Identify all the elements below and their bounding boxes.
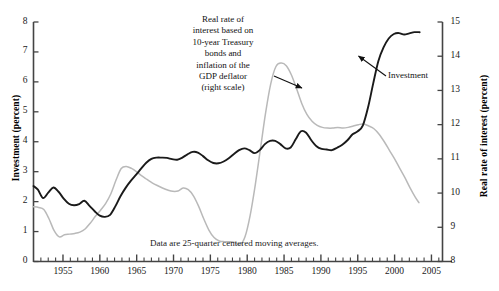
callout-line: GDP deflator bbox=[172, 71, 274, 82]
callout-line: bonds and bbox=[172, 48, 274, 59]
interest-callout-text: Real rate ofinterest based on10-year Tre… bbox=[172, 14, 274, 94]
right-tick-label: 14 bbox=[451, 50, 469, 60]
right-tick-label: 8 bbox=[451, 255, 469, 265]
right-axis-title: Real rate of interest (percent) bbox=[479, 70, 489, 202]
x-tick-label: 1990 bbox=[304, 266, 338, 276]
x-tick-label: 1955 bbox=[46, 266, 80, 276]
right-tick-label: 11 bbox=[451, 152, 469, 162]
callout-line: interest based on bbox=[172, 25, 274, 36]
x-tick-label: 2000 bbox=[378, 266, 412, 276]
left-tick-label: 7 bbox=[12, 45, 28, 55]
right-tick-label: 15 bbox=[451, 16, 469, 26]
interest-callout-arrow bbox=[274, 76, 302, 88]
x-tick-label: 2005 bbox=[414, 266, 448, 276]
investment-vs-real-interest-chart: Investment (percent) Real rate of intere… bbox=[0, 0, 499, 291]
left-tick-label: 4 bbox=[12, 135, 28, 145]
left-tick-label: 5 bbox=[12, 105, 28, 115]
left-tick-label: 6 bbox=[12, 75, 28, 85]
investment-callout-text: Investment bbox=[388, 70, 428, 80]
right-tick-label: 12 bbox=[451, 118, 469, 128]
left-tick-label: 0 bbox=[12, 255, 28, 265]
right-tick-label: 10 bbox=[451, 187, 469, 197]
x-tick-label: 1970 bbox=[157, 266, 191, 276]
callout-line: 10-year Treasury bbox=[172, 37, 274, 48]
right-tick-label: 13 bbox=[451, 84, 469, 94]
callout-line: Investment bbox=[388, 70, 428, 80]
x-tick-label: 1985 bbox=[267, 266, 301, 276]
callout-line: Real rate of bbox=[172, 14, 274, 25]
x-tick-label: 1965 bbox=[120, 266, 154, 276]
right-tick-label: 9 bbox=[451, 221, 469, 231]
footnote-text: Data are 25-quarter centered moving aver… bbox=[150, 238, 318, 248]
investment-callout-arrow bbox=[359, 56, 387, 76]
callout-line: (right scale) bbox=[172, 82, 274, 93]
callout-line: inflation of the bbox=[172, 60, 274, 71]
left-tick-label: 2 bbox=[12, 195, 28, 205]
x-tick-label: 1995 bbox=[341, 266, 375, 276]
left-tick-label: 1 bbox=[12, 225, 28, 235]
x-tick-label: 1980 bbox=[230, 266, 264, 276]
x-tick-label: 1975 bbox=[193, 266, 227, 276]
x-axis-major-ticks bbox=[63, 255, 431, 262]
left-tick-label: 8 bbox=[12, 16, 28, 26]
x-tick-label: 1960 bbox=[83, 266, 117, 276]
left-tick-label: 3 bbox=[12, 165, 28, 175]
